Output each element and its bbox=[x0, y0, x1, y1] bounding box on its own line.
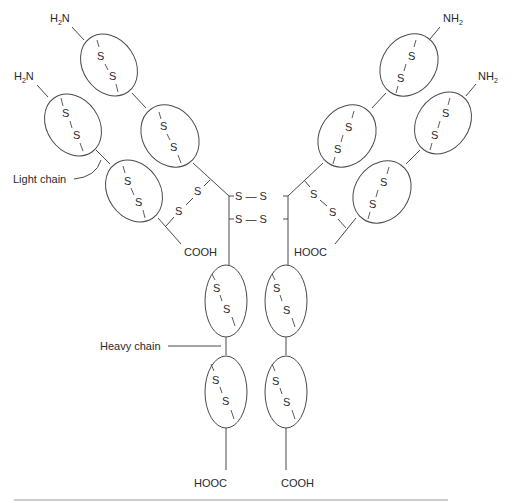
domain-vh-left: S S bbox=[69, 23, 149, 107]
svg-text:S: S bbox=[194, 185, 201, 197]
disulfide-s: S bbox=[170, 141, 177, 153]
n-terminus-heavy-left: H2N bbox=[50, 12, 70, 26]
c-terminus-heavy-right: COOH bbox=[281, 477, 314, 489]
disulfide-s: S bbox=[109, 70, 116, 82]
domain-ch2-right: S S bbox=[265, 265, 307, 337]
heavy-chain-label: Heavy chain bbox=[100, 340, 161, 352]
n-terminus-light-right: NH2 bbox=[478, 70, 498, 84]
disulfide-s: S bbox=[97, 50, 104, 62]
disulfide-s: S bbox=[73, 129, 80, 141]
interchain-disulfide-left: S S bbox=[166, 180, 210, 226]
domain-ch3-right: S S bbox=[265, 356, 307, 428]
disulfide-s: S bbox=[442, 107, 449, 119]
disulfide-s: S bbox=[283, 396, 290, 408]
c-terminus-heavy-left: HOOC bbox=[194, 477, 227, 489]
hinge-disulfide-2: S — S bbox=[235, 213, 267, 225]
disulfide-s: S bbox=[124, 175, 131, 187]
svg-text:S: S bbox=[175, 205, 182, 217]
disulfide-s: S bbox=[62, 107, 69, 119]
svg-text:S: S bbox=[329, 206, 336, 218]
n-terminus-light-left: H2N bbox=[14, 70, 34, 84]
disulfide-s: S bbox=[408, 50, 415, 62]
antibody-diagram: S S S S S S S S S S bbox=[0, 0, 512, 503]
disulfide-s: S bbox=[283, 304, 290, 316]
disulfide-s: S bbox=[212, 374, 219, 386]
disulfide-s: S bbox=[272, 375, 279, 387]
disulfide-s: S bbox=[431, 129, 438, 141]
disulfide-s: S bbox=[135, 196, 142, 208]
light-chain-callout: Light chain bbox=[13, 160, 101, 185]
hinge-disulfide-1: S — S bbox=[235, 190, 267, 202]
domain-ch2-left: S S bbox=[205, 265, 247, 337]
c-terminus-light-left: COOH bbox=[184, 246, 217, 258]
disulfide-s: S bbox=[160, 120, 167, 132]
disulfide-s: S bbox=[369, 198, 376, 210]
domain-vl-left: S S bbox=[33, 83, 113, 167]
disulfide-s: S bbox=[223, 303, 230, 315]
svg-text:S: S bbox=[310, 188, 317, 200]
disulfide-s: S bbox=[273, 282, 280, 294]
c-terminus-light-right: HOOC bbox=[294, 246, 327, 258]
interchain-disulfide-right: S S bbox=[304, 180, 346, 228]
disulfide-s: S bbox=[334, 143, 341, 155]
hinge-region: S — S S — S bbox=[229, 190, 288, 265]
disulfide-s: S bbox=[380, 176, 387, 188]
domain-ch3-left: S S bbox=[205, 356, 247, 428]
disulfide-s: S bbox=[345, 121, 352, 133]
disulfide-s: S bbox=[222, 395, 229, 407]
light-chain-label: Light chain bbox=[13, 173, 66, 185]
n-terminus-heavy-right: NH2 bbox=[443, 12, 463, 26]
heavy-chain-callout: Heavy chain bbox=[100, 340, 221, 352]
disulfide-s: S bbox=[213, 282, 220, 294]
disulfide-s: S bbox=[397, 72, 404, 84]
